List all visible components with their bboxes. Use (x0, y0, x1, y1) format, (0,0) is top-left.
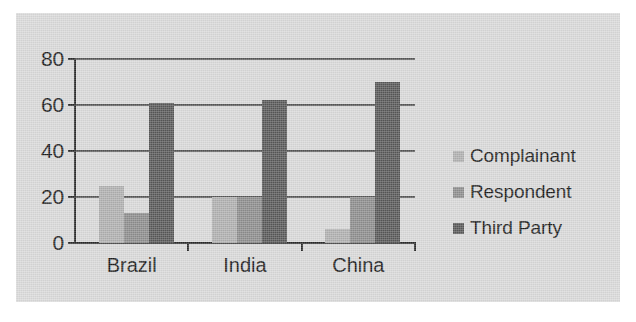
y-axis-tick-label: 60 (41, 93, 64, 117)
gridline (75, 58, 415, 60)
y-axis-tick (68, 242, 75, 244)
x-axis-tick (301, 243, 303, 251)
x-axis-category-label: India (223, 254, 266, 277)
y-axis-tick (68, 196, 75, 198)
x-axis-category-label: Brazil (107, 254, 157, 277)
y-axis-tick (68, 104, 75, 106)
bar-brazil-respondent (124, 213, 149, 243)
x-axis-tick (187, 243, 189, 251)
bar-china-respondent (350, 197, 375, 243)
legend-item-label: Respondent (470, 181, 571, 203)
bar-china-complainant (325, 229, 350, 243)
y-axis-tick (68, 150, 75, 152)
x-axis-category-label: China (332, 254, 384, 277)
bar-india-third-party (262, 100, 287, 243)
chart-panel: 020406080 BrazilIndiaChina ComplainantRe… (16, 13, 620, 302)
chart-screenshot: 020406080 BrazilIndiaChina ComplainantRe… (0, 0, 636, 322)
bar-china-third-party (375, 82, 400, 243)
bar-brazil-third-party (149, 103, 174, 243)
square-swatch-icon (453, 151, 464, 162)
chart-legend: ComplainantRespondentThird Party (453, 138, 613, 246)
square-swatch-icon (453, 223, 464, 234)
legend-item-label: Third Party (470, 217, 562, 239)
legend-item-label: Complainant (470, 145, 576, 167)
x-axis-tick (414, 243, 416, 251)
bar-india-complainant (212, 197, 237, 243)
gridline (75, 150, 415, 152)
y-axis-tick-label: 0 (53, 231, 64, 255)
legend-item-complainant[interactable]: Complainant (453, 138, 613, 174)
bar-brazil-complainant (99, 186, 124, 244)
gridline (75, 104, 415, 106)
y-axis-tick-label: 20 (41, 185, 64, 209)
bar-india-respondent (237, 197, 262, 243)
plot-area: 020406080 BrazilIndiaChina (75, 59, 415, 243)
legend-item-respondent[interactable]: Respondent (453, 174, 613, 210)
y-axis-tick (68, 58, 75, 60)
y-axis-tick-label: 40 (41, 139, 64, 163)
square-swatch-icon (453, 187, 464, 198)
legend-item-third-party[interactable]: Third Party (453, 210, 613, 246)
y-axis-tick-label: 80 (41, 47, 64, 71)
